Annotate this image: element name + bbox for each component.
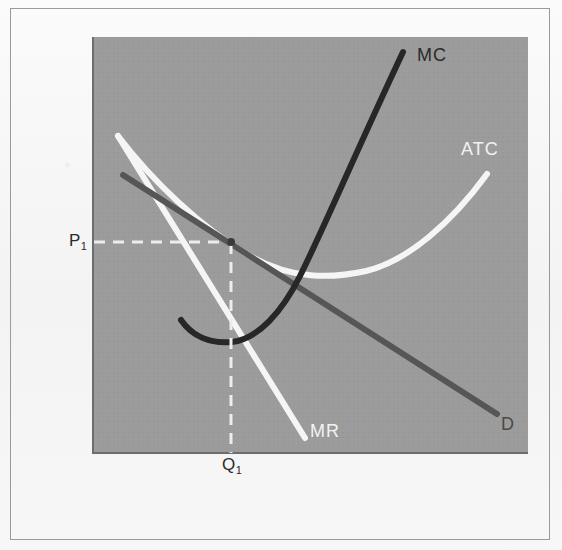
price-axis-label-subscript: 1: [81, 240, 88, 252]
figure-root: MC ATC MR D P1 Q1: [0, 0, 562, 550]
quantity-axis-label: Q1: [222, 455, 242, 476]
curve-label-demand: D: [501, 414, 515, 435]
price-axis-label-text: P: [69, 231, 81, 250]
quantity-axis-label-text: Q: [222, 455, 236, 474]
curve-label-mc: MC: [417, 45, 447, 66]
quantity-axis-label-subscript: 1: [236, 464, 243, 476]
curve-label-atc: ATC: [461, 139, 499, 160]
curve-label-mr: MR: [310, 421, 340, 442]
price-axis-label: P1: [69, 231, 87, 252]
plot-area: [92, 37, 528, 454]
